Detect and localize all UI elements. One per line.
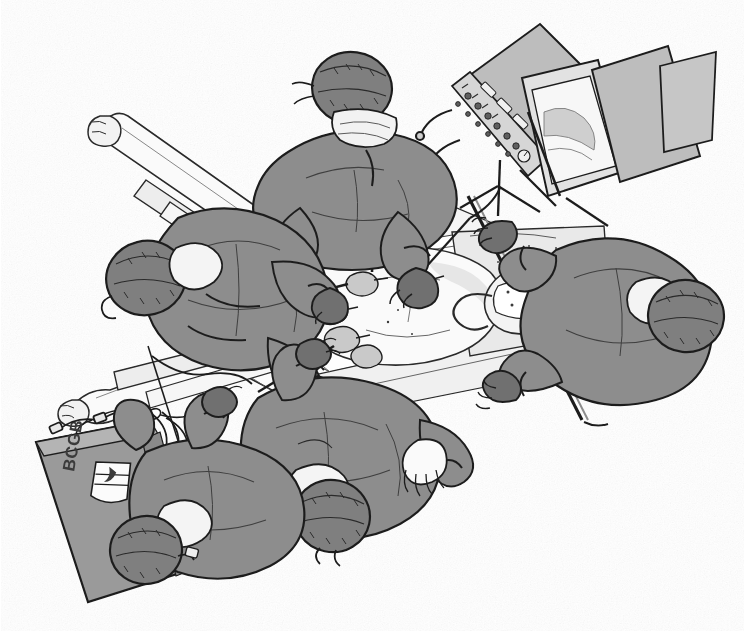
surgeon-top-mask [332, 109, 397, 147]
illustration-canvas: BCGB [0, 0, 744, 642]
operating-room-illustration: BCGB [0, 0, 744, 642]
crest-icon [88, 456, 134, 506]
